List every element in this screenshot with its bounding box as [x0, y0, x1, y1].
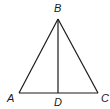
segment-bc — [58, 19, 98, 93]
label-c: C — [101, 92, 109, 104]
label-b: B — [54, 2, 61, 14]
segment-ab — [19, 19, 58, 93]
triangle-diagram: B A C D — [0, 0, 110, 109]
label-d: D — [54, 96, 62, 108]
triangle-svg: B A C D — [0, 0, 110, 109]
label-a: A — [6, 92, 14, 104]
